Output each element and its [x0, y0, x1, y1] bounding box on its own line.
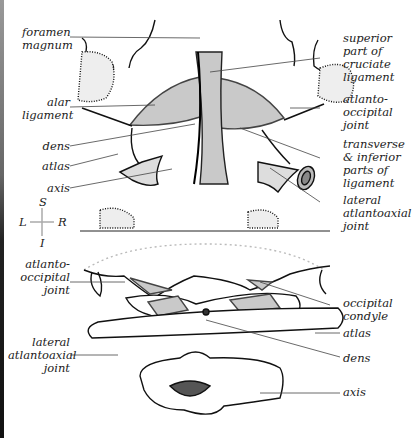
- label-atlas: atlas: [22, 160, 70, 173]
- label-occipital-condyle: occipital condyle: [343, 297, 393, 323]
- compass-arrows: [30, 208, 54, 236]
- anterior-view-diagram: [84, 244, 343, 414]
- label-transverse-inferior: transverse & inferior parts of ligament: [343, 138, 405, 190]
- label-dens-bottom: dens: [343, 352, 370, 365]
- label-dens: dens: [22, 140, 70, 153]
- label-atlanto-occipital-joint-bottom: atlanto- occipital joint: [8, 258, 70, 297]
- label-superior-cruciate: superior part of cruciate ligament: [343, 32, 394, 84]
- label-foramen-magnum: foramen magnum: [22, 26, 70, 52]
- compass-left: L: [19, 216, 27, 229]
- label-atlas-bottom: atlas: [343, 327, 371, 340]
- compass-right: R: [58, 216, 67, 229]
- compass-superior: S: [39, 196, 47, 209]
- label-axis-bottom: axis: [343, 386, 366, 399]
- label-alar-ligament: alar ligament: [22, 96, 70, 122]
- compass-inferior: I: [40, 237, 45, 250]
- label-lateral-atlantoaxial-joint-bottom: lateral atlantoaxial joint: [8, 336, 70, 375]
- label-lateral-atlantoaxial-joint-top: lateral atlantoaxial joint: [343, 194, 412, 233]
- label-atlanto-occipital-joint-top: atlanto- occipital joint: [343, 93, 393, 132]
- label-axis: axis: [22, 182, 70, 195]
